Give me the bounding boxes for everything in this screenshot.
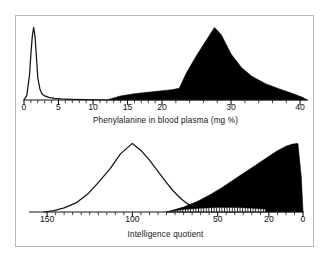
x-tick-label-0: 0 [22,102,27,112]
x-tick-label-30: 30 [226,102,236,112]
x-tick-label-50: 50 [213,214,223,224]
x-tick-label-15: 15 [123,102,133,112]
series-1-line [24,27,107,100]
x-tick-label-100: 100 [125,214,139,224]
x-tick-label-20: 20 [264,214,274,224]
series-2-filled [167,143,304,212]
series-2-filled [107,27,307,100]
x-tick-label-20: 20 [157,102,167,112]
chart-panel-iq: Intelligence quotient 15010050200 [16,134,315,248]
x-tick-label-40: 40 [295,102,305,112]
x-tick-label-10: 10 [88,102,98,112]
figure-root: Phenylalanine in blood plasma (mg %) 051… [0,0,329,259]
chart-panel-phenylalanine: Phenylalanine in blood plasma (mg %) 051… [16,16,315,134]
x-axis-label-iq: Intelligence quotient [16,230,315,239]
x-tick-label-150: 150 [40,214,54,224]
x-axis-label-phenylalanine: Phenylalanine in blood plasma (mg %) [16,116,315,125]
phenylalanine-plot [16,16,315,116]
figure-frame: Phenylalanine in blood plasma (mg %) 051… [15,15,314,247]
x-tick-label-5: 5 [56,102,61,112]
x-tick-label-0: 0 [301,214,306,224]
